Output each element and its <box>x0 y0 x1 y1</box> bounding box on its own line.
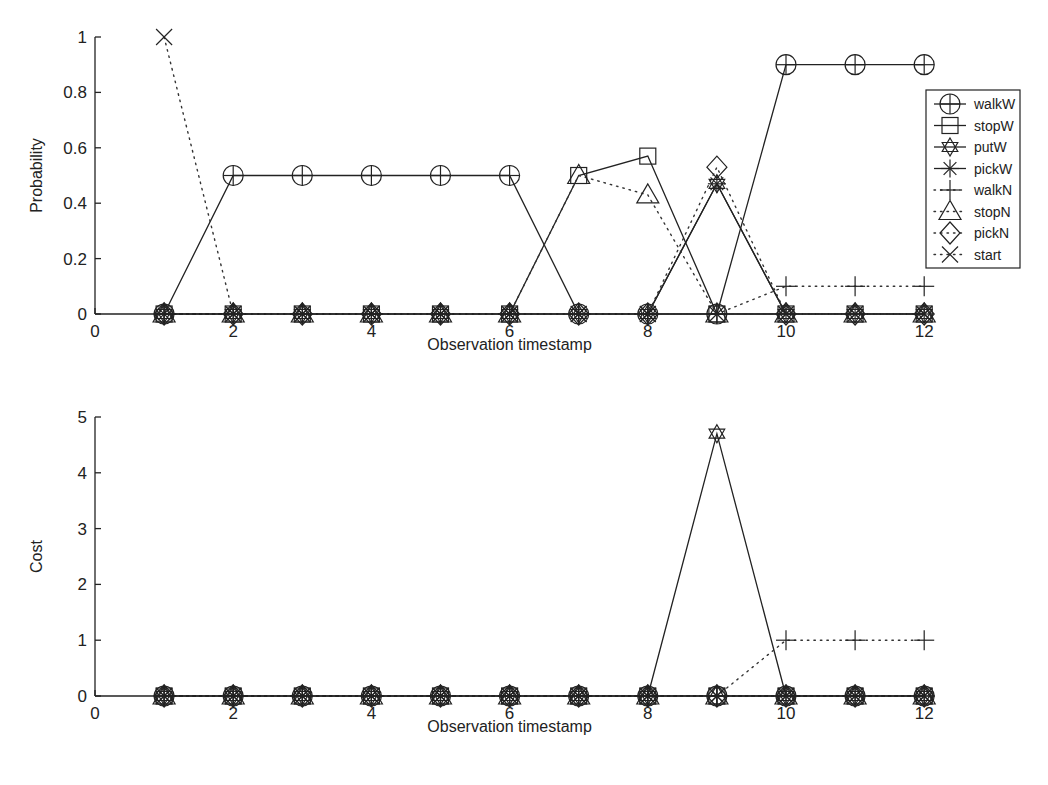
legend-label: pickN <box>974 225 1009 241</box>
series-line-pickW <box>164 184 924 314</box>
walkN-marker-plus-icon <box>845 630 865 650</box>
legend-label: stopN <box>974 204 1011 220</box>
walkN-marker-plus-icon <box>776 630 796 650</box>
y-tick-label: 0 <box>78 305 87 324</box>
y-tick-label: 0 <box>78 687 87 706</box>
series-line-putW <box>164 184 924 314</box>
walkW-marker-circle-plus-icon <box>845 55 865 75</box>
y-tick-label: 3 <box>78 520 87 539</box>
series-line-putW <box>164 434 924 696</box>
x-tick-label: 0 <box>90 322 99 341</box>
legend-pickW-marker-asterisk-icon <box>941 160 959 178</box>
walkW-marker-circle-plus-icon <box>500 166 520 186</box>
figure: 00.20.40.60.81024681012Observation times… <box>0 0 1048 785</box>
series-line-walkW <box>164 65 924 314</box>
series-markers-stopW <box>156 148 932 322</box>
cost-chart: 012345024681012Observation timestampCost <box>28 408 935 735</box>
walkN-marker-plus-icon <box>914 276 934 296</box>
legend-label: walkN <box>973 182 1012 198</box>
walkW-marker-circle-plus-icon <box>292 166 312 186</box>
y-tick-label: 0.6 <box>63 139 87 158</box>
y-tick-label: 0.2 <box>63 250 87 269</box>
y-tick-label: 5 <box>78 408 87 427</box>
walkW-marker-circle-plus-icon <box>223 166 243 186</box>
probability-chart: 00.20.40.60.81024681012Observation times… <box>28 28 935 353</box>
x-tick-label: 0 <box>90 704 99 723</box>
series-markers-pickN <box>154 156 934 325</box>
legend-walkW-marker-circle-plus-icon <box>940 94 960 114</box>
y-tick-label: 4 <box>78 464 87 483</box>
series-line-walkN <box>164 286 924 314</box>
walkW-marker-circle-plus-icon <box>361 166 381 186</box>
x-axis-title: Observation timestamp <box>427 336 592 353</box>
legend-label: stopW <box>974 118 1014 134</box>
start-marker-x-icon <box>156 29 172 45</box>
chart-canvas: 00.20.40.60.81024681012Observation times… <box>0 0 1048 785</box>
series-line-walkN <box>164 640 924 696</box>
legend-label: walkW <box>973 96 1016 112</box>
legend-label: pickW <box>974 161 1013 177</box>
series-line-pickN <box>164 167 924 314</box>
walkW-marker-circle-plus-icon <box>431 166 451 186</box>
legend: walkWstopWputWpickWwalkNstopNpickNstart <box>926 90 1020 268</box>
legend-label: start <box>974 247 1001 263</box>
y-tick-label: 2 <box>78 575 87 594</box>
walkW-marker-circle-plus-icon <box>776 55 796 75</box>
walkN-marker-plus-icon <box>914 630 934 650</box>
y-axis-title: Probability <box>28 138 45 213</box>
series-markers-stopN <box>153 685 935 704</box>
series-markers-walkN <box>154 276 934 324</box>
series-markers-stopN <box>153 165 935 323</box>
y-tick-label: 1 <box>78 28 87 47</box>
y-tick-label: 1 <box>78 631 87 650</box>
series-markers-putW <box>156 425 932 705</box>
legend-label: putW <box>974 139 1007 155</box>
x-axis-title: Observation timestamp <box>427 718 592 735</box>
walkN-marker-plus-icon <box>845 276 865 296</box>
y-tick-label: 0.4 <box>63 194 87 213</box>
series-markers-putW <box>156 175 932 323</box>
series-line-stopW <box>164 156 924 314</box>
walkN-marker-plus-icon <box>776 276 796 296</box>
series-line-stopN <box>164 176 924 315</box>
series-markers-walkN <box>154 630 934 706</box>
series-markers-walkW <box>154 55 934 324</box>
y-axis-title: Cost <box>28 540 45 573</box>
series-group <box>153 425 935 707</box>
walkW-marker-circle-plus-icon <box>914 55 934 75</box>
series-group <box>153 29 935 325</box>
series-markers-pickW <box>155 175 933 323</box>
stopN-marker-triangle-icon <box>637 184 659 203</box>
y-tick-label: 0.8 <box>63 83 87 102</box>
